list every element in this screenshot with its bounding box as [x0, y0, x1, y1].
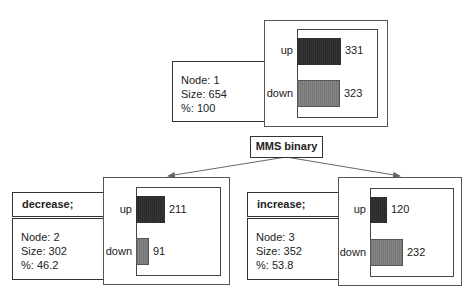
node-1-info-box: Node: 1 Size: 654 %: 100 — [172, 61, 265, 122]
node-2-down-bar — [136, 238, 149, 265]
node-1-id: Node: 1 — [181, 73, 264, 87]
edge-to-node-3 — [286, 157, 400, 176]
node-3-down-label: down — [326, 246, 366, 258]
node-1-size: Size: 654 — [181, 87, 264, 101]
node-2-down-label: down — [92, 245, 132, 257]
node-2-up-label: up — [92, 203, 132, 215]
node-1-up-value: 331 — [345, 44, 363, 56]
node-3-down-bar — [370, 239, 403, 266]
node-3-id: Node: 3 — [256, 230, 338, 244]
node-2-down-value: 91 — [153, 245, 165, 257]
node-2-info-box: Node: 2 Size: 302 %: 46.2 — [12, 218, 104, 280]
node-3-up-bar — [370, 197, 387, 223]
node-1-up-label: up — [253, 44, 293, 56]
node-2-up-value: 211 — [169, 203, 187, 215]
node-1-down-label: down — [253, 87, 293, 99]
node-1-up-bar — [297, 38, 341, 65]
node-3-up-value: 120 — [391, 203, 409, 215]
node-1-down-value: 323 — [344, 87, 362, 99]
node-3-down-value: 232 — [407, 246, 425, 258]
node-1-down-bar — [297, 80, 340, 107]
split-variable-label: MMS binary — [250, 136, 323, 158]
edge-to-node-2 — [168, 157, 286, 176]
node-2-size: Size: 302 — [21, 244, 103, 258]
node-3-up-label: up — [326, 203, 366, 215]
node-2-up-bar — [136, 196, 165, 223]
node-3-pct: %: 53.8 — [256, 258, 338, 272]
node-2-branch-label: decrease; — [12, 192, 104, 217]
node-1-pct: %: 100 — [181, 101, 264, 115]
node-2-pct: %: 46.2 — [21, 258, 103, 272]
node-2-id: Node: 2 — [21, 230, 103, 244]
